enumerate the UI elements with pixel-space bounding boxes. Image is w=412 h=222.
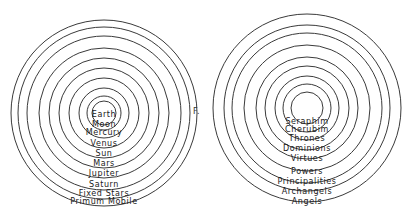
- sphere-label: Mercury: [86, 128, 123, 137]
- angelic-hierarchy-diagram: SeraphimCherubimThronesDominionsVirtuesP…: [213, 14, 401, 206]
- celestial-spheres-diagram: EarthMoonMercuryVenusSunMarsJupiterSatur…: [11, 20, 197, 206]
- spheres-diagram-canvas: EarthMoonMercuryVenusSunMarsJupiterSatur…: [0, 0, 412, 222]
- sphere-label: Mars: [93, 159, 115, 168]
- sphere-label: Primum Mobile: [70, 197, 137, 206]
- sphere-label: Virtues: [291, 154, 323, 163]
- sphere-label: Earth: [92, 110, 116, 119]
- sphere-label: Saturn: [89, 180, 119, 189]
- sphere-label: Angels: [292, 197, 323, 206]
- sphere-label: Powers: [291, 167, 323, 176]
- sphere-label: Sun: [95, 149, 112, 158]
- sphere-label: Archangels: [282, 187, 332, 196]
- sphere-label: Dominions: [283, 144, 331, 153]
- sphere-label: Principalities: [277, 177, 336, 186]
- sphere-label: Cherubim: [285, 125, 329, 134]
- sphere-label: Thrones: [288, 134, 325, 143]
- stray-pencil-mark: F.: [193, 107, 200, 116]
- sphere-label: Jupiter: [88, 169, 119, 178]
- sphere-label: Venus: [90, 139, 117, 148]
